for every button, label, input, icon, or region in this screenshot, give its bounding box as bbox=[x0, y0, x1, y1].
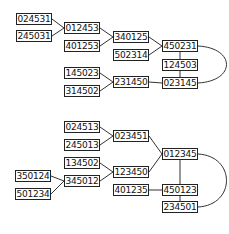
edge-line bbox=[51, 176, 64, 181]
node-box: 245031 bbox=[16, 30, 52, 42]
edge-line bbox=[100, 136, 113, 145]
edge-curve bbox=[198, 46, 227, 83]
node-box: 501234 bbox=[15, 188, 51, 200]
node-box: 123450 bbox=[113, 166, 149, 178]
edge-line bbox=[149, 136, 162, 154]
node-box: 023451 bbox=[113, 130, 149, 142]
node-box: 023145 bbox=[162, 77, 198, 89]
node-box: 234501 bbox=[162, 201, 198, 213]
edge-line bbox=[100, 82, 113, 91]
node-box: 012453 bbox=[64, 22, 100, 34]
edge-line bbox=[100, 163, 113, 172]
node-box: 401253 bbox=[64, 40, 100, 52]
edge-line bbox=[100, 28, 113, 37]
node-box: 231450 bbox=[113, 76, 149, 88]
node-box: 340125 bbox=[113, 31, 149, 43]
node-box: 124503 bbox=[162, 59, 198, 71]
node-box: 134502 bbox=[64, 157, 100, 169]
node-box: 024513 bbox=[64, 121, 100, 133]
node-box: 345012 bbox=[64, 175, 100, 187]
node-box: 450231 bbox=[162, 40, 198, 52]
edge-curve bbox=[198, 154, 227, 207]
edge-line bbox=[149, 46, 162, 55]
node-box: 314502 bbox=[64, 85, 100, 97]
edge-line bbox=[100, 37, 113, 46]
edge-line bbox=[149, 154, 162, 172]
node-box: 450123 bbox=[162, 184, 198, 196]
node-box: 245013 bbox=[64, 139, 100, 151]
edge-line bbox=[149, 37, 162, 46]
edge-line bbox=[149, 82, 162, 83]
node-box: 350124 bbox=[15, 170, 51, 182]
edge-line bbox=[52, 28, 64, 36]
node-box: 024531 bbox=[16, 13, 52, 25]
edge-line bbox=[100, 127, 113, 136]
edge-line bbox=[51, 181, 64, 194]
node-box: 401235 bbox=[113, 184, 149, 196]
edge-line bbox=[100, 73, 113, 82]
node-box: 145023 bbox=[64, 67, 100, 79]
node-box: 502314 bbox=[113, 49, 149, 61]
edge-line bbox=[100, 172, 113, 181]
node-box: 012345 bbox=[162, 148, 198, 160]
edge-line bbox=[52, 19, 64, 28]
